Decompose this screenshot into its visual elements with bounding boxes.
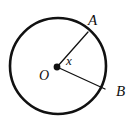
geometry-figure: A B O x — [0, 0, 134, 124]
label-center-o: O — [39, 69, 49, 83]
radius-line-oa — [57, 32, 88, 67]
center-point-dot — [54, 64, 61, 71]
label-point-b: B — [116, 84, 125, 99]
label-angle-x: x — [66, 54, 72, 67]
radius-line-ob — [57, 67, 105, 89]
label-point-a: A — [88, 13, 97, 28]
